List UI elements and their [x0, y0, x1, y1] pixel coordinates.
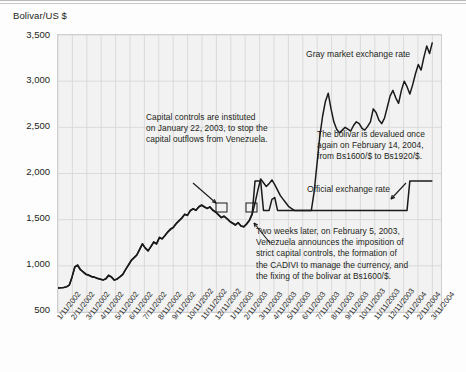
annotation-cadivi: Two weeks later, on February 5, 2003, Ve… — [256, 226, 408, 282]
callout-boxes — [216, 203, 257, 212]
annotation-capital-controls: Capital controls are instituted on Janua… — [146, 112, 268, 146]
annotation-devaluation-2004: The bolivar is devalued once again on Fe… — [317, 129, 425, 163]
y-tick-2500: 2,500 — [4, 120, 50, 131]
y-axis-title: Bolivar/US $ — [13, 10, 67, 21]
y-tick-1500: 1,500 — [4, 212, 50, 223]
y-tick-1000: 1,000 — [4, 258, 50, 269]
figure-top-rule — [0, 3, 466, 4]
y-tick-500: 500 — [4, 304, 50, 315]
y-tick-3000: 3,000 — [4, 74, 50, 85]
y-tick-3500: 3,500 — [4, 29, 50, 40]
y-tick-2000: 2,000 — [4, 166, 50, 177]
chart-figure: Bolivar/US $ 3,500 3,000 2,500 2,000 1,5… — [0, 0, 466, 372]
gray-market-series-label: Gray market exchange rate — [306, 49, 410, 59]
official-rate-series-label: Official exchange rate — [307, 184, 390, 194]
